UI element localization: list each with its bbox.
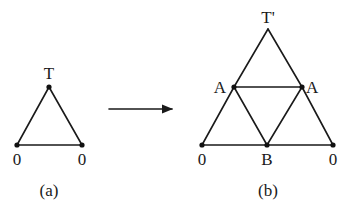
vertex-label-Tp: T' — [261, 8, 274, 27]
vertex-T — [46, 84, 51, 89]
edge-AR-B — [267, 87, 302, 145]
vertex-label-R0: 0 — [329, 150, 338, 169]
vertex-label-L0: 0 — [13, 150, 22, 169]
panel-a-labels: T00 — [13, 64, 87, 169]
vertex-label-L0: 0 — [198, 150, 207, 169]
vertex-AR — [299, 84, 304, 89]
vertex-label-B: B — [261, 150, 272, 169]
panel-b-subdivided-triangle: T'AA0B0 (b) — [198, 8, 338, 200]
edge-AL-B — [234, 87, 267, 145]
vertex-label-T: T — [44, 64, 55, 83]
vertex-L0 — [14, 142, 19, 147]
vertex-R0 — [330, 142, 335, 147]
vertex-R0 — [79, 142, 84, 147]
edge-T-L0 — [17, 87, 49, 145]
panel-a-triangle: T00 (a) — [13, 64, 87, 200]
vertex-AL — [231, 84, 236, 89]
edge-Tp-AR — [268, 29, 302, 87]
panel-a-edges — [17, 87, 82, 145]
vertex-L0 — [199, 142, 204, 147]
vertex-label-AL: A — [214, 78, 227, 97]
edge-T-R0 — [49, 87, 82, 145]
vertex-label-R0: 0 — [78, 150, 87, 169]
edge-Tp-AL — [234, 29, 268, 87]
vertex-label-AR: A — [306, 78, 319, 97]
panel-a-caption: (a) — [40, 181, 59, 200]
panel-b-caption: (b) — [258, 181, 278, 200]
refinement-diagram: T00 (a) T'AA0B0 (b) — [0, 0, 354, 217]
vertex-B — [264, 142, 269, 147]
panel-a-nodes — [14, 84, 84, 147]
